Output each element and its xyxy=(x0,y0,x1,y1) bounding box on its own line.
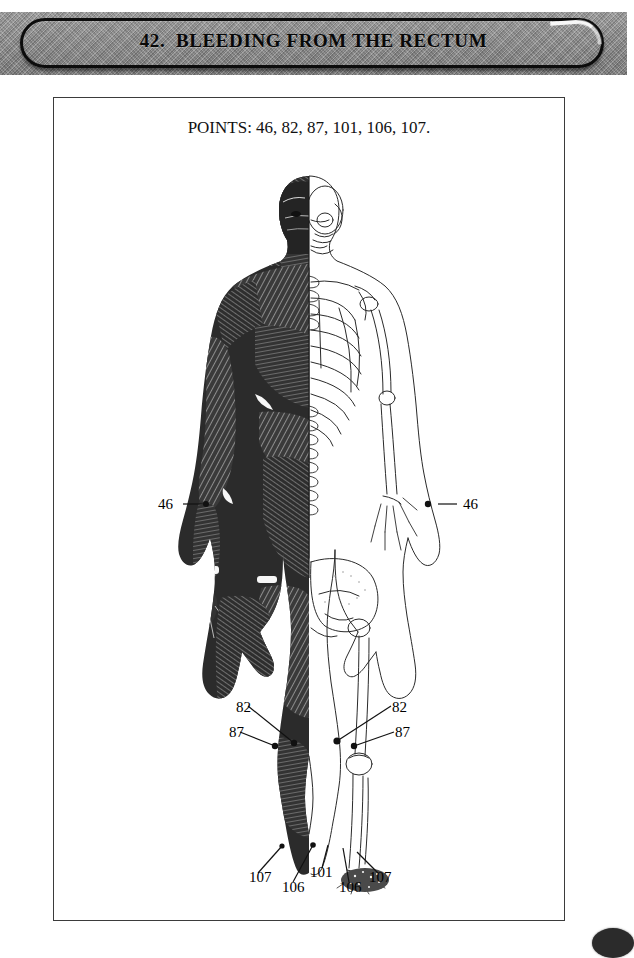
anatomical-figure xyxy=(159,158,459,898)
content-frame: POINTS: 46, 82, 87, 101, 106, 107. xyxy=(53,97,565,921)
callout-label-center-101: 101 xyxy=(310,864,333,881)
callout-label-right-106: 106 xyxy=(339,879,362,896)
callout-label-left-107: 107 xyxy=(249,869,272,886)
callout-label-right-82: 82 xyxy=(392,699,407,716)
callout-label-right-107: 107 xyxy=(369,869,392,886)
header-banner: 42. BLEEDING FROM THE RECTUM xyxy=(0,12,627,75)
points-list-line: POINTS: 46, 82, 87, 101, 106, 107. xyxy=(54,118,564,138)
chapter-title: 42. BLEEDING FROM THE RECTUM xyxy=(0,30,627,52)
callout-label-left-82: 82 xyxy=(236,699,251,716)
callout-label-right-87: 87 xyxy=(395,724,410,741)
figure-area xyxy=(54,158,566,918)
callout-label-left-106: 106 xyxy=(282,879,305,896)
callout-label-left-87: 87 xyxy=(229,724,244,741)
page-number-marker xyxy=(592,928,634,958)
callout-label-left-46: 46 xyxy=(158,496,173,513)
callout-label-right-46: 46 xyxy=(463,496,478,513)
